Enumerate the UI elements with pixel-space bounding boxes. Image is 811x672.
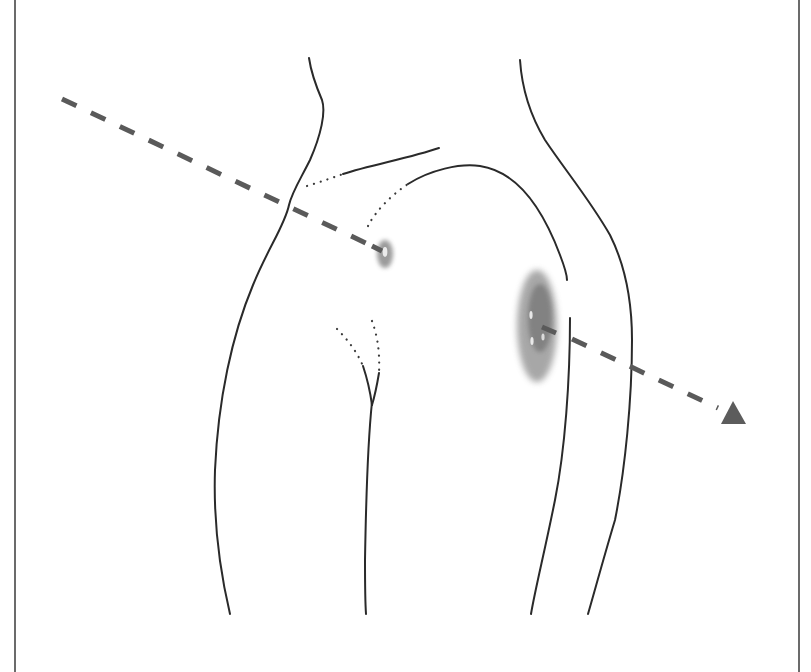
inner-thigh-line	[365, 402, 372, 614]
hip-arc-outline	[408, 165, 567, 280]
hip-arc-dotted	[368, 184, 408, 226]
groin-crease-dotted	[307, 174, 343, 186]
crotch-left-stroke	[363, 366, 372, 405]
left-flank-outline	[215, 58, 324, 614]
diagram-frame	[0, 0, 811, 672]
groin-crease-line	[343, 148, 439, 174]
direction-arrowhead	[721, 401, 746, 424]
crotch-right-dotted	[372, 321, 379, 373]
crotch-right-stroke	[372, 373, 379, 405]
crotch-left-dotted	[337, 329, 363, 366]
anatomy-illustration	[0, 0, 811, 672]
large-wound	[517, 270, 557, 382]
small-wound	[377, 240, 393, 268]
